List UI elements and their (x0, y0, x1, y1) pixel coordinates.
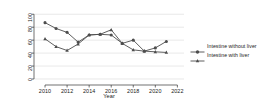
data-point-triangle (109, 28, 112, 31)
legend-item[interactable]: Intestine without liver (190, 42, 260, 50)
chart-legend: Intestine without liverIntestine with li… (190, 42, 260, 60)
data-point-circle (55, 27, 58, 30)
series-1 (43, 21, 167, 53)
legend-item[interactable]: Intestine with liver (190, 51, 260, 59)
data-point-circle (132, 39, 135, 42)
chart-figure: Transplants 020406080100 201020122014201… (0, 0, 263, 106)
data-point-circle (165, 40, 168, 43)
data-point-circle (43, 21, 46, 24)
plot-canvas (34, 10, 184, 88)
data-point-circle (110, 33, 113, 36)
plot-area (34, 10, 184, 78)
data-point-triangle (43, 37, 46, 40)
series-line (45, 30, 166, 53)
legend-label: Intestine without liver (205, 43, 257, 49)
legend-marker-circle-icon (190, 42, 205, 50)
legend-label: Intestine with liver (205, 52, 249, 58)
legend-marker-triangle-icon (190, 51, 205, 59)
x-axis-title: Year (34, 93, 184, 99)
data-point-circle (66, 31, 69, 34)
y-axis-tick-label: 0 (27, 78, 33, 81)
data-point-circle (154, 46, 157, 49)
